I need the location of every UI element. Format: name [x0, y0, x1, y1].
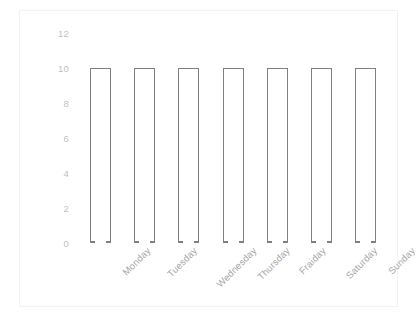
bar-base-stub: [134, 241, 139, 243]
bar-base-stub: [90, 241, 95, 243]
x-axis: MondayTuesdayWednesdayThursdayFraidaySat…: [78, 245, 388, 305]
y-axis-tick-label: 2: [64, 203, 69, 214]
x-axis-tick-label: Saturday: [343, 245, 379, 281]
y-axis-tick-label: 10: [58, 63, 69, 74]
bar-base-stub: [355, 241, 360, 243]
bar[interactable]: [90, 68, 111, 243]
bar-base-stub: [239, 241, 244, 243]
y-axis-tick-label: 8: [64, 98, 69, 109]
bar-base-stub: [223, 241, 228, 243]
bar-base-stub: [106, 241, 111, 243]
bar[interactable]: [178, 68, 199, 243]
bar-base-stub: [283, 241, 288, 243]
y-axis-tick-label: 4: [64, 168, 69, 179]
x-axis-tick-label: Thursday: [255, 245, 292, 282]
x-axis-tick-label: Fraiday: [297, 245, 328, 276]
bars-layer: [78, 33, 388, 243]
bar[interactable]: [223, 68, 244, 243]
x-axis-tick-label: Sunday: [386, 245, 417, 276]
bar-base-stub: [371, 241, 376, 243]
plot-area: 024681012: [78, 33, 388, 243]
bar-base-stub: [178, 241, 183, 243]
chart-frame: 024681012 MondayTuesdayWednesdayThursday…: [19, 10, 398, 307]
bar-base-stub: [311, 241, 316, 243]
bar-base-stub: [194, 241, 199, 243]
bar[interactable]: [134, 68, 155, 243]
bar[interactable]: [355, 68, 376, 243]
bar-base-stub: [150, 241, 155, 243]
bar[interactable]: [267, 68, 288, 243]
y-axis-tick-label: 0: [64, 238, 69, 249]
bar-base-stub: [267, 241, 272, 243]
bar-base-stub: [327, 241, 332, 243]
x-axis-tick-label: Monday: [120, 245, 153, 278]
x-axis-tick-label: Tuesday: [165, 245, 199, 279]
y-axis-tick-label: 6: [64, 133, 69, 144]
y-axis-tick-label: 12: [58, 28, 69, 39]
bar[interactable]: [311, 68, 332, 243]
x-axis-tick-label: Wednesday: [214, 245, 258, 289]
